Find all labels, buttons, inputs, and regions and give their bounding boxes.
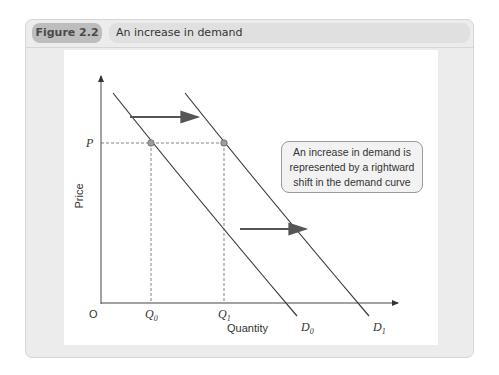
d0-curve-label: D0 [301,320,314,336]
quantity-axis-label: Quantity [227,322,268,334]
annotation-line-1: An increase in demand is [282,145,422,160]
origin-label: O [89,308,98,320]
d0-letter: D [301,320,310,334]
q0-tick-label: Q0 [145,307,158,323]
q0-letter: Q [145,307,154,321]
d1-subscript: 1 [382,327,386,336]
d1-curve-label: D1 [373,320,386,336]
d1-letter: D [373,320,382,334]
price-tick-label: P [86,136,93,151]
d0-subscript: 0 [310,327,314,336]
demand-curve-d0 [113,93,297,316]
annotation-line-2: represented by a rightward [282,160,422,175]
price-axis-label: Price [73,183,85,208]
demand-chart: Price [0,0,499,375]
annotation-box: An increase in demand is represented by … [281,141,423,193]
annotation-line-3: shift in the demand curve [282,175,422,190]
q0-subscript: 0 [154,314,158,323]
q1-letter: Q [218,307,227,321]
equilibrium-point-d0 [148,140,154,146]
demand-curve-d1 [185,93,369,316]
equilibrium-point-d1 [221,140,227,146]
q1-tick-label: Q1 [218,307,231,323]
